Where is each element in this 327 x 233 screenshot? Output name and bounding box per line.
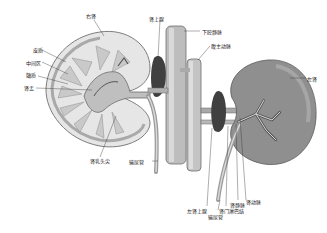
label-inferior-vena-cava: 下腔静脉 [202,29,222,35]
left-ureter [218,124,240,200]
label-ureter-left: 输尿管 [208,214,223,220]
label-cortex: 皮质 [33,47,43,53]
label-right-kidney: 右肾 [86,13,96,19]
right-kidney-section [46,31,150,146]
label-left-adrenal: 左肾上腺 [187,208,207,214]
label-renal-pelvis: 肾盂 [24,85,34,91]
label-intermediate-zone: 中间区 [26,60,41,66]
label-abdominal-aorta: 腹主动脉 [211,43,231,49]
label-hilar-lymph-node: 肾门淋巴结 [219,208,244,214]
left-adrenal-gland [211,91,226,132]
left-kidney [231,60,317,165]
kidney-anatomy-illustration [0,0,327,233]
label-ureter-right: 输尿管 [129,159,144,165]
abdominal-aorta [187,59,201,171]
label-renal-vein: 肾静脉 [230,202,245,208]
label-renal-artery: 肾动脉 [246,199,261,205]
inferior-vena-cava [166,26,186,164]
label-renal-papilla: 肾乳头尖 [90,158,110,164]
label-left-kidney: 左肾 [307,76,317,82]
label-medulla: 髓质 [26,72,36,78]
label-right-adrenal: 肾上腺 [149,16,164,22]
